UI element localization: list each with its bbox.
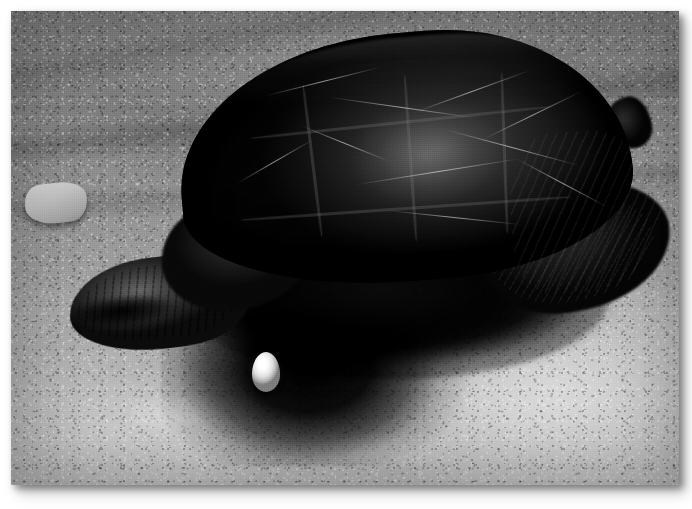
photo-frame — [11, 11, 679, 485]
film-grain — [11, 11, 679, 485]
photograph — [11, 11, 679, 485]
page-root — [0, 0, 692, 509]
